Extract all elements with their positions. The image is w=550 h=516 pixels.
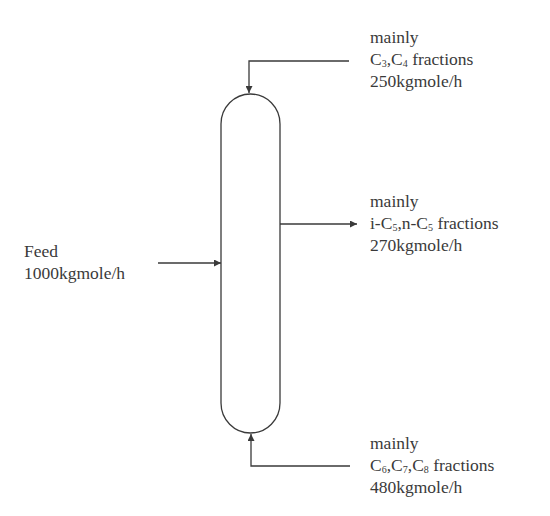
side-stream-label: mainly i-C5,n-C5 fractions 270kgmole/h [370,190,499,256]
feed-flow: 1000kgmole/h [24,262,125,284]
feed-line1: Feed [24,240,125,262]
side-stream-flow: 270kgmole/h [370,234,499,256]
bottom-stream-line2: C6,C7,C8 fractions [370,454,494,476]
bottom-stream-flow: 480kgmole/h [370,476,494,498]
bottom-stream-arrow [251,434,350,466]
bottom-stream-label: mainly C6,C7,C8 fractions 480kgmole/h [370,432,494,498]
top-stream-label: mainly C3,C4 fractions 250kgmole/h [370,26,473,92]
feed-label: Feed 1000kgmole/h [24,240,125,284]
bottom-stream-line1: mainly [370,432,494,454]
side-stream-line1: mainly [370,190,499,212]
top-stream-flow: 250kgmole/h [370,70,473,92]
top-stream-line1: mainly [370,26,473,48]
distillation-column [221,94,280,433]
top-stream-arrow [249,61,349,93]
side-stream-line2: i-C5,n-C5 fractions [370,212,499,234]
top-stream-line2: C3,C4 fractions [370,48,473,70]
